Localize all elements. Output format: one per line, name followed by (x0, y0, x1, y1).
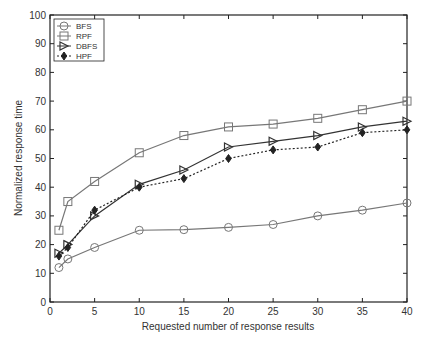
x-tick-label: 40 (401, 306, 413, 317)
y-axis-label: Normalized response time (13, 99, 24, 216)
legend: BFSRPFDBFSHPF (54, 19, 104, 61)
legend-label: RPF (76, 32, 92, 41)
legend-label: DBFS (76, 42, 97, 51)
x-tick-label: 25 (268, 306, 280, 317)
y-tick-label: 20 (35, 239, 47, 250)
y-tick-label: 10 (35, 268, 47, 279)
y-tick-label: 0 (40, 297, 46, 308)
legend-label: BFS (76, 22, 92, 31)
y-tick-label: 80 (35, 67, 47, 78)
y-tick-label: 50 (35, 153, 47, 164)
y-tick-label: 100 (29, 10, 46, 21)
x-tick-label: 15 (178, 306, 190, 317)
y-tick-label: 40 (35, 182, 47, 193)
y-tick-label: 30 (35, 210, 47, 221)
x-tick-label: 5 (92, 306, 98, 317)
x-tick-label: 35 (357, 306, 369, 317)
y-tick-label: 90 (35, 38, 47, 49)
line-chart: 0102030405060708090100 0510152025303540 … (0, 0, 425, 348)
x-axis-label: Requested number of response results (142, 321, 314, 332)
y-tick-label: 60 (35, 124, 47, 135)
x-tick-label: 0 (47, 306, 53, 317)
x-tick-label: 10 (134, 306, 146, 317)
legend-label: HPF (76, 52, 92, 61)
x-tick-label: 30 (312, 306, 324, 317)
y-tick-label: 70 (35, 96, 47, 107)
x-tick-label: 20 (223, 306, 235, 317)
